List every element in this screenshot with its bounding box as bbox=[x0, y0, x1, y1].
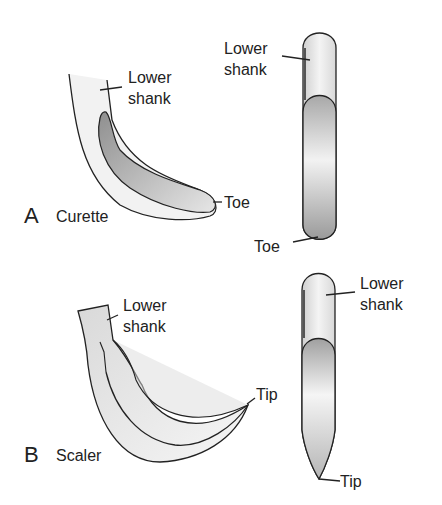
scaler-front-lower-shank-label-1: Lower bbox=[360, 275, 404, 292]
scaler-lower-shank-label-2: shank bbox=[123, 318, 167, 335]
curette-front-lower-shank-label-2: shank bbox=[224, 61, 268, 78]
curette-lower-shank-label-2: shank bbox=[128, 90, 172, 107]
scaler-front-lower-shank-label-2: shank bbox=[360, 296, 404, 313]
curette-toe-label: Toe bbox=[224, 194, 250, 211]
curette-front-view bbox=[282, 33, 336, 242]
scaler-front-view bbox=[302, 274, 355, 482]
panel-a-title: Curette bbox=[56, 208, 109, 225]
scaler-lower-shank-label-1: Lower bbox=[123, 297, 167, 314]
panel-b-letter: B bbox=[24, 442, 39, 467]
curette-front-toe-label: Toe bbox=[254, 238, 280, 255]
scaler-front-tip-label: Tip bbox=[340, 473, 362, 490]
curette-front-lower-shank-label-1: Lower bbox=[224, 40, 268, 57]
curette-lower-shank-label-1: Lower bbox=[128, 69, 172, 86]
panel-b-title: Scaler bbox=[56, 447, 102, 464]
scaler-tip-label: Tip bbox=[256, 386, 278, 403]
instrument-diagram: Lower shank Toe A Curette Lower shank To… bbox=[0, 0, 442, 505]
panel-a-letter: A bbox=[24, 203, 39, 228]
scaler-side-view bbox=[78, 305, 255, 462]
